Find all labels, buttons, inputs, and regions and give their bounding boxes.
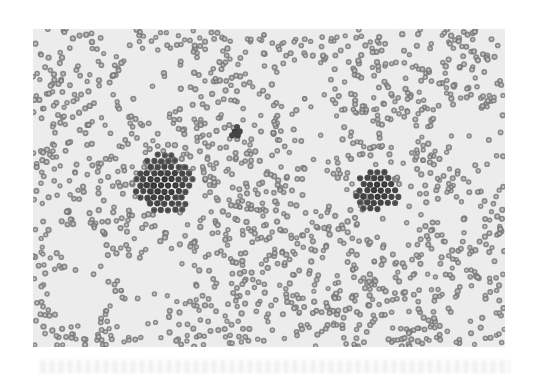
blood-cell-micrograph bbox=[33, 29, 505, 347]
bleed-through-text bbox=[40, 360, 510, 374]
micrograph-canvas bbox=[33, 29, 505, 347]
